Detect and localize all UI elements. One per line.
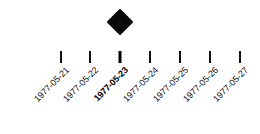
axis-tick-1977-05-21: [60, 51, 62, 63]
timeline-chart: 1977-05-211977-05-221977-05-231977-05-24…: [0, 0, 260, 134]
axis-tick-1977-05-24: [149, 51, 151, 63]
axis-tick-1977-05-26: [209, 51, 211, 63]
axis-tick-1977-05-27: [239, 51, 241, 63]
diamond-marker[interactable]: [107, 9, 134, 36]
axis-tick-1977-05-25: [179, 51, 181, 63]
axis-tick-1977-05-23: [119, 51, 122, 63]
axis-tick-1977-05-22: [89, 51, 91, 63]
